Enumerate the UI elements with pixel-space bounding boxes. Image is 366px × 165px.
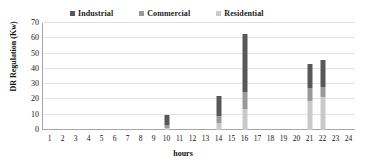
bar-segment-industrial [307,64,312,88]
y-tick-label: 50 [31,48,39,57]
x-tick-label: 3 [74,134,78,143]
y-axis-title: DR Regulation (Kw) [9,2,18,112]
dr-regulation-stacked-bar-chart: IndustrialCommercialResidential DR Regul… [0,0,366,165]
x-tick-label: 11 [176,134,183,143]
bar-segment-residential [164,128,169,130]
plot-area: 0102030405060701234567891011121314151617… [42,23,355,130]
square-marker-icon [216,11,221,16]
y-tick-label: 10 [31,109,39,118]
y-gridline: 50 [43,53,355,54]
legend-label: Residential [224,9,263,18]
bar-hour-21[interactable] [307,64,312,130]
y-tick-label: 60 [31,33,39,42]
x-tick-label: 16 [241,134,249,143]
x-tick-label: 6 [113,134,117,143]
x-tick-label: 21 [306,134,314,143]
legend-entry-commercial[interactable]: Commercial [139,9,190,18]
bar-segment-residential [242,109,247,130]
x-tick-label: 24 [345,134,353,143]
legend-entry-residential[interactable]: Residential [216,9,263,18]
x-tick-label: 10 [163,134,171,143]
bar-segment-commercial [216,116,221,123]
y-tick-label: 20 [31,94,39,103]
bar-hour-22[interactable] [320,60,325,130]
y-tick-label: 40 [31,63,39,72]
x-tick-label: 4 [87,134,91,143]
bar-segment-industrial [216,96,221,116]
square-marker-icon [139,11,144,16]
chart-legend: IndustrialCommercialResidential [70,7,356,20]
x-tick-label: 9 [152,134,156,143]
legend-label: Commercial [147,9,190,18]
bar-segment-industrial [242,34,247,92]
bar-segment-residential [320,97,325,130]
bar-segment-residential [216,123,221,130]
x-tick-label: 14 [215,134,223,143]
x-tick-label: 22 [319,134,327,143]
bar-segment-industrial [320,60,325,87]
y-tick-label: 0 [35,125,39,134]
bar-hour-10[interactable] [164,115,169,130]
bar-segment-industrial [164,115,169,126]
legend-entry-industrial[interactable]: Industrial [70,9,113,18]
legend-label: Industrial [78,9,113,18]
y-tick-label: 30 [31,79,39,88]
x-tick-label: 20 [293,134,301,143]
x-tick-label: 7 [126,134,130,143]
x-tick-label: 23 [332,134,340,143]
y-tick-label: 70 [31,18,39,27]
x-tick-label: 17 [254,134,262,143]
x-tick-label: 15 [228,134,236,143]
bar-hour-16[interactable] [242,34,247,130]
x-tick-label: 5 [100,134,104,143]
x-axis-title: hours [0,149,366,158]
x-tick-label: 2 [61,134,65,143]
bar-segment-commercial [242,92,247,109]
bar-segment-commercial [320,87,325,97]
x-tick-label: 18 [267,134,275,143]
x-tick-label: 1 [48,134,52,143]
bar-segment-commercial [307,88,312,101]
x-tick-label: 8 [139,134,143,143]
bar-segment-residential [307,101,312,130]
square-marker-icon [70,11,75,16]
bar-hour-14[interactable] [216,96,221,130]
x-tick-label: 13 [202,134,210,143]
y-gridline: 60 [43,37,355,38]
x-tick-label: 12 [189,134,197,143]
x-tick-label: 19 [280,134,288,143]
y-gridline: 70 [43,22,355,23]
